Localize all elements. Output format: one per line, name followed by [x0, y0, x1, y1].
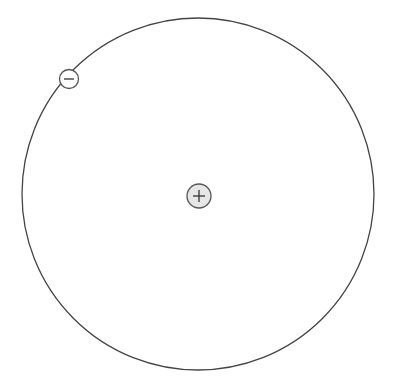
atom-diagram	[0, 0, 398, 379]
nucleus	[187, 184, 211, 208]
electron	[60, 70, 79, 89]
